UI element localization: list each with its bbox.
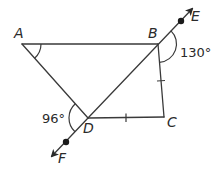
label-f: F (58, 150, 67, 166)
label-a: A (13, 25, 24, 41)
tick-mark-bc (157, 81, 165, 82)
label-d: D (83, 120, 94, 136)
line-ef-to-e (88, 9, 192, 118)
segment-ad (22, 44, 88, 118)
angle-arc-d-96 (69, 104, 75, 132)
angle-arc-a (35, 44, 41, 58)
angle-value-b: 130° (180, 45, 211, 60)
label-e: E (191, 8, 200, 24)
point-f-dot (63, 139, 69, 145)
label-b: B (148, 25, 158, 41)
label-c: C (167, 114, 177, 130)
geometry-diagram: A B C D E F 130° 96° (0, 0, 219, 170)
angle-value-d: 96° (42, 111, 65, 126)
angle-arc-b-130 (160, 31, 177, 63)
point-e-dot (178, 18, 184, 24)
